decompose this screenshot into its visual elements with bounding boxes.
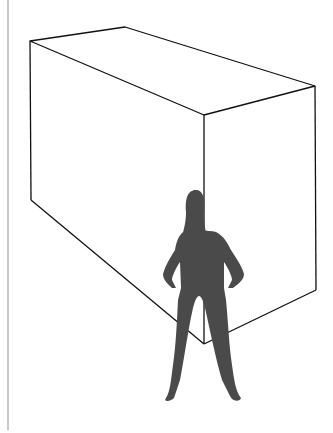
box-right-edge — [315, 86, 316, 290]
box-top-face — [30, 27, 315, 115]
box-outline — [30, 27, 316, 344]
person-silhouette — [163, 190, 244, 401]
box-diagram — [0, 0, 333, 433]
box-left-edge — [30, 41, 31, 200]
